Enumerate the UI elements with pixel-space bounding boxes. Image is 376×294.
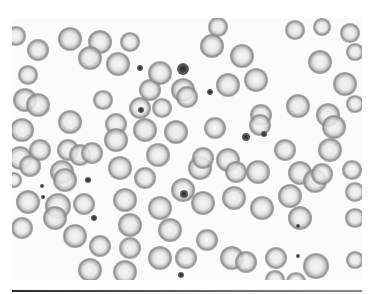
red-blood-cell	[341, 24, 359, 42]
red-blood-cell	[19, 66, 37, 84]
platelet-dot	[207, 89, 213, 95]
red-blood-cell	[27, 94, 49, 116]
red-blood-cell	[177, 87, 197, 107]
red-blood-cell	[289, 207, 311, 229]
red-blood-cell	[236, 252, 256, 272]
red-blood-cell	[309, 51, 331, 73]
platelet-dot	[242, 133, 250, 141]
red-blood-cell	[223, 187, 245, 209]
red-blood-cell	[312, 164, 332, 184]
red-blood-cell	[217, 74, 239, 96]
red-blood-cell	[109, 157, 131, 179]
red-blood-cell	[347, 96, 363, 112]
platelet-dot	[40, 184, 44, 188]
red-blood-cell	[346, 183, 364, 201]
platelet-dot	[85, 177, 91, 183]
red-blood-cell	[159, 219, 181, 241]
red-blood-cell	[165, 121, 187, 143]
red-blood-cell	[30, 140, 50, 160]
red-blood-cell	[247, 161, 269, 183]
platelet-dot	[180, 190, 188, 198]
red-blood-cell	[105, 129, 127, 151]
platelet-dot	[137, 65, 143, 71]
red-blood-cell	[149, 197, 171, 219]
platelet-dot	[296, 224, 300, 228]
blood-smear-image	[0, 0, 376, 294]
red-blood-cell	[54, 169, 76, 191]
red-blood-cell	[120, 238, 140, 258]
platelet-dot	[178, 272, 184, 278]
red-blood-cell	[153, 99, 171, 117]
red-blood-cell	[193, 148, 213, 168]
red-blood-cell	[226, 162, 246, 182]
red-blood-cell	[59, 111, 81, 133]
red-blood-cell	[90, 236, 110, 256]
red-blood-cell	[314, 19, 330, 35]
red-blood-cell	[7, 27, 25, 45]
red-blood-cell	[346, 209, 364, 227]
red-blood-cell	[107, 53, 129, 75]
red-blood-cell	[121, 33, 139, 51]
red-blood-cell	[94, 91, 112, 109]
platelet-dot	[177, 63, 189, 75]
platelet-dot	[41, 195, 45, 199]
red-blood-cell	[245, 69, 267, 91]
red-blood-cell	[74, 194, 94, 214]
red-blood-cell	[134, 119, 156, 141]
red-blood-cell	[192, 192, 214, 214]
red-blood-cell	[266, 271, 284, 289]
red-blood-cell	[64, 225, 86, 247]
red-blood-cell	[119, 214, 141, 236]
red-blood-cell	[59, 28, 81, 50]
red-blood-cell	[304, 254, 328, 278]
red-blood-cell	[11, 119, 33, 141]
red-blood-cell	[209, 18, 227, 36]
red-blood-cell	[114, 261, 136, 283]
red-blood-cell	[250, 115, 270, 135]
red-blood-cell	[279, 185, 301, 207]
red-blood-cell	[287, 273, 305, 291]
micrograph-figure	[0, 0, 376, 294]
platelet-dot	[261, 131, 267, 137]
red-blood-cell	[275, 140, 295, 160]
red-blood-cell	[135, 168, 155, 188]
red-blood-cell	[82, 143, 102, 163]
red-blood-cell	[12, 218, 32, 238]
red-blood-cell	[287, 95, 309, 117]
platelet-dot	[296, 254, 300, 258]
red-blood-cell	[286, 21, 304, 39]
red-blood-cell	[334, 73, 356, 95]
red-blood-cell	[231, 45, 253, 67]
red-blood-cell	[79, 259, 101, 281]
red-blood-cell	[266, 248, 286, 268]
red-blood-cell	[319, 139, 341, 161]
red-blood-cell	[205, 118, 225, 138]
red-blood-cell	[28, 40, 48, 60]
red-blood-cell	[147, 144, 169, 166]
red-blood-cell	[343, 161, 361, 179]
red-blood-cell	[114, 189, 136, 211]
red-blood-cell	[17, 191, 39, 213]
red-blood-cell	[323, 116, 345, 138]
red-blood-cell	[176, 248, 196, 268]
figure-rule-line	[12, 290, 362, 292]
platelet-dot	[91, 215, 97, 221]
red-blood-cell	[7, 173, 21, 187]
red-blood-cell	[44, 207, 66, 229]
red-blood-cell	[197, 230, 217, 250]
red-blood-cell	[251, 197, 273, 219]
red-blood-cell	[149, 247, 171, 269]
red-blood-cell	[201, 35, 223, 57]
platelet-dot	[138, 107, 144, 113]
red-blood-cell	[79, 47, 101, 69]
red-blood-cell	[149, 62, 171, 84]
red-blood-cell	[347, 252, 363, 268]
red-blood-cell	[347, 44, 363, 60]
